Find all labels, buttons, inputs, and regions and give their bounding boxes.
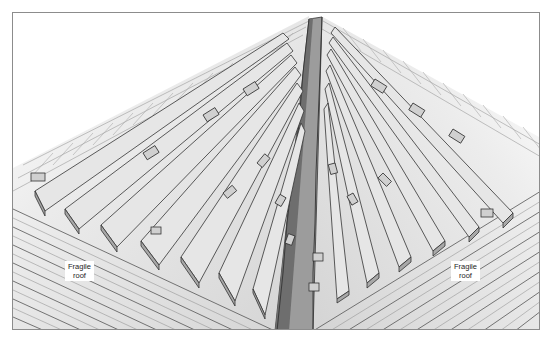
label-line1: Fragile [68, 262, 91, 271]
fragile-roof-label-right: Fragile roof [451, 261, 480, 281]
roof-illustration [13, 13, 540, 330]
label-line1: Fragile [454, 262, 477, 271]
fragile-roof-label-left: Fragile roof [65, 261, 94, 281]
label-line2: roof [454, 271, 477, 280]
label-line2: roof [68, 271, 91, 280]
diagram-frame: Fragile roof Fragile roof [12, 12, 540, 330]
